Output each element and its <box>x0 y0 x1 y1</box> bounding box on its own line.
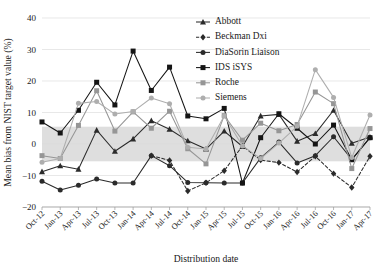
line-chart: −20−10010203040Oct-12Jan-13Apr-13Jul-13O… <box>0 0 377 267</box>
data-point <box>40 153 45 158</box>
y-axis-title: Mean bias from NIST target value (%) <box>2 38 14 186</box>
data-point <box>112 129 117 134</box>
data-point <box>185 113 190 118</box>
legend-label: Roche <box>215 77 239 87</box>
data-point <box>222 181 227 186</box>
legend-label: Beckman Dxi <box>215 31 267 41</box>
x-tick-label: Apr-15 <box>205 209 228 232</box>
data-point <box>58 187 63 192</box>
data-point <box>112 112 117 117</box>
chart-legend: AbbottBeckman DxiDiaSorin LiaisonIDS iSY… <box>196 16 280 102</box>
data-point <box>313 142 318 147</box>
data-point <box>222 106 227 111</box>
data-point <box>94 80 99 85</box>
data-point <box>76 101 81 106</box>
data-point <box>94 99 99 104</box>
data-point <box>40 119 45 124</box>
y-tick-label: 40 <box>27 13 37 23</box>
data-point <box>331 123 336 128</box>
data-point <box>313 90 318 95</box>
chart-container: −20−10010203040Oct-12Jan-13Apr-13Jul-13O… <box>0 0 377 267</box>
y-tick-label: 30 <box>27 45 37 55</box>
data-point <box>222 113 227 118</box>
data-point <box>258 135 263 140</box>
y-tick-label: −20 <box>22 202 37 212</box>
data-point <box>276 141 281 146</box>
data-point <box>368 113 373 118</box>
data-point <box>58 156 63 161</box>
legend-label: Abbott <box>215 16 241 26</box>
data-point <box>149 88 154 93</box>
y-tick-label: 0 <box>32 139 37 149</box>
data-point <box>167 163 172 168</box>
legend-label: DiaSorin Liaison <box>215 47 280 57</box>
x-axis-title: Distribution date <box>174 253 239 264</box>
x-tick-label: Apr-14 <box>133 208 157 232</box>
data-point <box>368 135 373 140</box>
data-point <box>313 67 318 72</box>
x-tick-label: Apr-16 <box>278 209 301 232</box>
data-point <box>167 109 172 114</box>
data-point <box>148 118 154 124</box>
data-point <box>58 130 63 135</box>
data-point <box>149 126 154 131</box>
data-point <box>295 124 300 129</box>
data-point <box>295 160 300 165</box>
x-tick-label: Apr-17 <box>351 209 374 232</box>
data-point <box>204 180 209 185</box>
x-axis: Oct-12Jan-13Apr-13Jul-13Oct-13Jan-14Apr-… <box>24 207 375 232</box>
y-tick-label: 10 <box>27 108 37 118</box>
data-point <box>131 49 136 54</box>
data-point <box>240 143 245 148</box>
data-point <box>40 160 45 165</box>
data-point <box>131 109 136 114</box>
data-point <box>349 155 354 160</box>
data-point <box>185 180 190 185</box>
data-point <box>331 95 336 100</box>
data-point <box>349 166 354 171</box>
data-point <box>94 88 99 93</box>
data-point <box>112 102 117 107</box>
data-point <box>240 181 245 186</box>
legend-marker <box>201 50 206 55</box>
data-point <box>76 183 81 188</box>
data-point <box>40 179 45 184</box>
data-point <box>258 121 263 126</box>
data-point <box>185 145 190 150</box>
data-point <box>167 101 172 106</box>
data-point <box>204 161 209 166</box>
data-point <box>368 126 373 131</box>
data-point <box>57 163 63 169</box>
x-tick-label: Oct-12 <box>24 209 47 232</box>
data-point <box>167 65 172 70</box>
data-point <box>204 147 209 152</box>
data-point <box>149 96 154 101</box>
data-point <box>331 134 336 139</box>
legend-marker <box>201 96 206 101</box>
data-point <box>149 153 154 158</box>
data-point <box>76 123 81 128</box>
y-tick-label: −10 <box>22 171 37 181</box>
data-point <box>240 138 245 143</box>
x-tick-label: Oct-14 <box>170 208 193 231</box>
data-point <box>204 116 209 121</box>
x-tick-label: Apr-13 <box>60 209 83 232</box>
data-point <box>349 184 354 190</box>
legend-marker <box>201 65 206 70</box>
legend-marker <box>200 34 205 40</box>
y-tick-label: 20 <box>27 76 37 86</box>
legend-label: Siemens <box>215 92 247 102</box>
x-tick-label: Oct-16 <box>315 209 338 232</box>
data-point <box>313 153 318 158</box>
legend-label: IDS iSYS <box>215 62 252 72</box>
x-tick-label: Oct-15 <box>242 209 265 232</box>
x-tick-label: Oct-13 <box>97 209 120 232</box>
data-point <box>276 128 281 133</box>
data-point <box>94 176 99 181</box>
legend-marker <box>201 80 206 85</box>
data-point <box>276 111 281 116</box>
data-point <box>131 181 136 186</box>
data-point <box>258 156 263 161</box>
data-point <box>112 181 117 186</box>
